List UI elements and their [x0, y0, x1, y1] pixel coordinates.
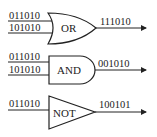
or-gate-label: OR	[61, 22, 77, 34]
not-output: 100101	[99, 99, 131, 110]
and-output: 001010	[98, 58, 130, 69]
or-gate: 011010 101010 OR 111010	[8, 10, 146, 44]
and-input-2: 101010	[9, 64, 41, 75]
or-input-1: 011010	[9, 10, 40, 21]
or-input-2: 101010	[9, 22, 41, 33]
not-input-1: 011010	[9, 98, 40, 109]
not-gate: 011010 NOT 100101	[8, 96, 146, 129]
not-gate-label: NOT	[53, 107, 76, 119]
or-output: 111010	[100, 16, 131, 27]
and-input-1: 011010	[9, 51, 40, 62]
and-gate: 011010 101010 AND 001010	[8, 51, 146, 84]
logic-gates-diagram: 011010 101010 OR 111010 011010 101010 AN…	[0, 0, 157, 137]
and-gate-label: AND	[57, 64, 81, 76]
